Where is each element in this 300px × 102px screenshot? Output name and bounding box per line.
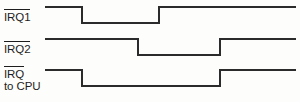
timing-diagram: IRQ1 IRQ2 IRQ to CPU	[0, 0, 300, 102]
waveform-irq2	[45, 39, 296, 55]
waveform-irq-to-cpu	[45, 70, 296, 86]
waveform-canvas	[0, 0, 300, 102]
waveform-irq1	[45, 7, 296, 23]
